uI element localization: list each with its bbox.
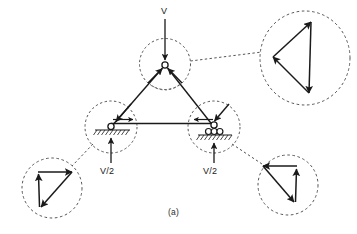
apex-pin-joint-icon [162,62,168,68]
left-joint-force-polygon [22,158,82,218]
left-pinned-support-icon [94,123,131,135]
left-joint-member-force-arrows [113,104,133,122]
figure-caption: (a) [168,208,179,217]
truss-members [111,68,214,127]
leader-line-apex [191,52,263,61]
left-reaction-label: V/2 [100,167,114,176]
truss-diagram-svg [0,0,357,234]
right-joint-force-polygon [258,155,318,215]
right-roller-support-icon [197,122,233,140]
right-reaction-label: V/2 [203,167,217,176]
leader-line-right [232,144,262,164]
right-joint-member-force-arrows [194,104,229,121]
applied-load-label: V [161,7,167,16]
leader-line-left [72,144,93,166]
apex-force-polygon [260,11,350,105]
figure-container: V V/2 V/2 (a) [0,0,357,234]
